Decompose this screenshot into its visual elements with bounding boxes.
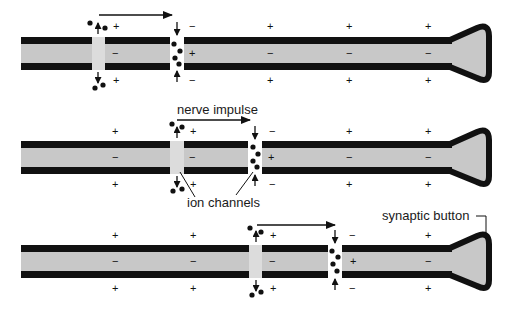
charge-outside: − — [189, 20, 195, 32]
charge-inside: − — [112, 255, 118, 267]
charge-inside: − — [346, 47, 352, 59]
ion-channel-pointer — [236, 172, 253, 195]
charge-outside: + — [267, 20, 273, 32]
charge-outside: + — [425, 178, 431, 190]
charge-inside: − — [425, 151, 431, 163]
charge-outside: + — [112, 229, 118, 241]
charge-outside: + — [425, 74, 431, 86]
charge-outside: + — [113, 74, 119, 86]
charge-inside: − — [269, 255, 275, 267]
charge-outside: − — [269, 125, 275, 137]
axon-stage-2: nerve impulse + + − − − + ion channels +… — [21, 102, 490, 210]
charge-inside: − — [346, 151, 352, 163]
charge-inside: + — [268, 151, 274, 163]
charge-inside: − — [425, 255, 431, 267]
charge-outside: − — [349, 229, 355, 241]
charge-inside: − — [267, 47, 273, 59]
charge-inside: − — [189, 151, 195, 163]
charge-outside: + — [425, 20, 431, 32]
charge-outside: + — [346, 20, 352, 32]
charge-inside: + — [189, 47, 195, 59]
charge-outside: + — [190, 178, 196, 190]
charge-outside: + — [113, 20, 119, 32]
charge-outside: + — [425, 229, 431, 241]
charge-outside: + — [112, 178, 118, 190]
charge-outside: + — [112, 125, 118, 137]
synaptic-button-pointer — [476, 216, 486, 233]
nerve-impulse-diagram: + + − − − + + − + + − + + − + nerve impu… — [0, 0, 516, 317]
charge-outside: + — [270, 282, 276, 294]
charge-outside: + — [112, 282, 118, 294]
charge-outside: − — [269, 178, 275, 190]
charge-outside: + — [190, 229, 196, 241]
charge-outside: + — [190, 282, 196, 294]
charge-outside: + — [425, 282, 431, 294]
charge-inside: − — [425, 47, 431, 59]
nerve-impulse-label: nerve impulse — [177, 102, 258, 117]
axon-stage-1: + + − − − + + − + + − + + − + — [21, 15, 490, 91]
charge-inside: + — [350, 255, 356, 267]
charge-outside: + — [346, 74, 352, 86]
membrane-bottom — [21, 63, 92, 70]
charge-outside: − — [189, 74, 195, 86]
axon-stage-3: + + − − − + synaptic button + − + + − + … — [21, 208, 490, 298]
membrane-top — [21, 37, 92, 44]
membrane-top — [105, 37, 170, 44]
charge-inside: − — [112, 151, 118, 163]
membrane-bottom — [105, 63, 170, 70]
charge-outside: + — [346, 125, 352, 137]
charge-outside: + — [270, 229, 276, 241]
axoplasm — [21, 27, 490, 80]
charge-outside: + — [267, 74, 273, 86]
membrane-top — [184, 37, 452, 44]
membrane-bottom — [184, 63, 452, 70]
charge-outside: + — [346, 178, 352, 190]
charge-outside: + — [190, 125, 196, 137]
charge-inside: − — [190, 255, 196, 267]
charge-outside: − — [349, 282, 355, 294]
ion-channels-label: ion channels — [187, 195, 260, 210]
charge-outside: + — [425, 125, 431, 137]
charge-inside: − — [112, 47, 118, 59]
synaptic-button-label: synaptic button — [382, 208, 469, 223]
